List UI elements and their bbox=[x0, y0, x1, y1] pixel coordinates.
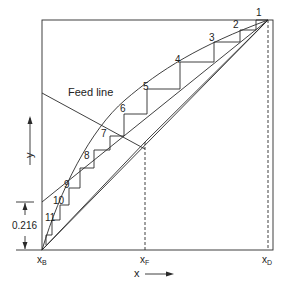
feed-line bbox=[42, 93, 145, 149]
stage-label-8: 8 bbox=[84, 150, 90, 161]
x-marker-xb: xB bbox=[37, 254, 47, 266]
x-axis-arrow-icon bbox=[166, 272, 174, 277]
x-marker-xd: xD bbox=[262, 254, 272, 266]
stage-label-9: 9 bbox=[64, 179, 70, 190]
stage-label-5: 5 bbox=[143, 81, 149, 92]
diagonal-line bbox=[42, 20, 268, 250]
stage-label-11: 11 bbox=[45, 212, 56, 223]
stage-label-3: 3 bbox=[209, 32, 215, 43]
stage-label-4: 4 bbox=[175, 54, 181, 65]
stage-label-1: 1 bbox=[256, 7, 262, 18]
x-axis-label: x bbox=[134, 267, 140, 279]
y-axis-label: y bbox=[23, 152, 35, 158]
intercept-label: 0.216 bbox=[12, 220, 37, 231]
x-marker-xf: xF bbox=[140, 254, 149, 266]
stage-label-10: 10 bbox=[53, 195, 65, 206]
stage-label-7: 7 bbox=[101, 128, 107, 139]
arrow-up-icon bbox=[23, 203, 28, 210]
y-axis-arrow-icon bbox=[28, 116, 33, 124]
rectifying-upper-line bbox=[145, 20, 268, 142]
arrow-down-icon bbox=[23, 242, 28, 249]
feed-line-label: Feed line bbox=[68, 86, 113, 98]
stage-label-6: 6 bbox=[120, 103, 126, 114]
plot-frame bbox=[42, 20, 273, 250]
stage-label-2: 2 bbox=[233, 19, 239, 30]
mccabe-thiele-diagram: 1 2 3 4 5 6 7 8 9 10 11 Feed line y 0.21… bbox=[0, 0, 289, 289]
